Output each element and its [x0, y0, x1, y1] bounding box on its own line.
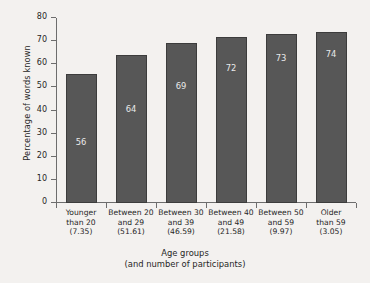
x-category-line: and 59 — [256, 218, 306, 228]
x-category-label: Between 50and 59(9.97) — [256, 208, 306, 237]
bar[interactable]: 64 — [116, 55, 147, 203]
y-tick-label-60: 60 — [37, 58, 47, 67]
x-category-line: (7.35) — [56, 227, 106, 237]
bar-slot: 56 — [56, 18, 106, 203]
x-axis-title-sub: (and number of participants) — [0, 259, 370, 270]
x-category-line: Between 40 — [206, 208, 256, 218]
x-category-line: Between 20 — [106, 208, 156, 218]
y-tick-label-10: 10 — [37, 174, 47, 183]
bar-slot: 69 — [156, 18, 206, 203]
bar[interactable]: 72 — [216, 37, 247, 204]
bar-series: 566469727374 — [56, 18, 356, 203]
bar[interactable]: 56 — [66, 74, 97, 204]
bar-slot: 74 — [306, 18, 356, 203]
x-category-line: Younger — [56, 208, 106, 218]
x-category-line: than 20 — [56, 218, 106, 228]
x-axis-category-labels: Youngerthan 20(7.35)Between 20and 29(51.… — [56, 208, 356, 237]
plot-area: 01020304050607080 566469727374 — [56, 18, 356, 203]
x-category-line: Between 50 — [256, 208, 306, 218]
bar[interactable]: 74 — [316, 32, 347, 203]
x-category-label: Youngerthan 20(7.35) — [56, 208, 106, 237]
y-tick-label-30: 30 — [37, 128, 47, 137]
bar-slot: 73 — [256, 18, 306, 203]
x-axis-title-main: Age groups — [0, 248, 370, 259]
y-tick-label-80: 80 — [37, 12, 47, 21]
bar-value-label: 64 — [117, 104, 146, 114]
bar-value-label: 74 — [317, 49, 346, 59]
x-category-line: (3.05) — [306, 227, 356, 237]
x-category-line: and 29 — [106, 218, 156, 228]
x-axis-title: Age groups (and number of participants) — [0, 248, 370, 269]
y-tick-label-0: 0 — [42, 197, 47, 206]
bar-slot: 72 — [206, 18, 256, 203]
x-category-line: (9.97) — [256, 227, 306, 237]
x-category-line: than 59 — [306, 218, 356, 228]
x-category-line: (46.59) — [156, 227, 206, 237]
bar-chart: Percentage of words known 01020304050607… — [0, 0, 370, 283]
x-category-line: and 49 — [206, 218, 256, 228]
bar[interactable]: 69 — [166, 43, 197, 203]
x-category-line: Older — [306, 208, 356, 218]
x-category-label: Olderthan 59(3.05) — [306, 208, 356, 237]
y-tick-label-50: 50 — [37, 81, 47, 90]
y-axis-title: Percentage of words known — [22, 13, 32, 193]
x-category-line: (51.61) — [106, 227, 156, 237]
bar-value-label: 56 — [67, 137, 96, 147]
y-tick-label-40: 40 — [37, 105, 47, 114]
x-category-line: (21.58) — [206, 227, 256, 237]
y-tick-label-20: 20 — [37, 151, 47, 160]
x-category-line: Between 30 — [156, 208, 206, 218]
bar[interactable]: 73 — [266, 34, 297, 203]
bar-value-label: 73 — [267, 53, 296, 63]
x-category-label: Between 40and 49(21.58) — [206, 208, 256, 237]
bar-value-label: 72 — [217, 63, 246, 73]
bar-slot: 64 — [106, 18, 156, 203]
x-category-label: Between 30and 39(46.59) — [156, 208, 206, 237]
y-tick-label-70: 70 — [37, 35, 47, 44]
x-tick-6 — [356, 203, 357, 208]
bar-value-label: 69 — [167, 81, 196, 91]
x-category-label: Between 20and 29(51.61) — [106, 208, 156, 237]
x-category-line: and 39 — [156, 218, 206, 228]
